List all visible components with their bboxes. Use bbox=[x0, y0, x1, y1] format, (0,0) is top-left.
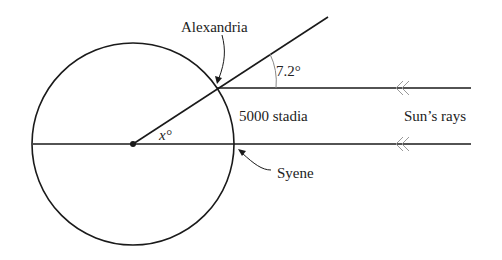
label-distance: 5000 stadia bbox=[239, 108, 308, 124]
syene-leader-arrow bbox=[242, 153, 271, 170]
label-angle-7-2: 7.2° bbox=[276, 63, 301, 79]
alexandria-radius-line bbox=[133, 17, 328, 144]
eratosthenes-diagram: Alexandria 7.2° 5000 stadia Sun’s rays x… bbox=[0, 0, 502, 260]
label-angle-x: x° bbox=[158, 127, 172, 143]
alexandria-arrowhead-icon bbox=[215, 76, 222, 84]
label-syene: Syene bbox=[277, 165, 314, 181]
label-alexandria: Alexandria bbox=[181, 19, 248, 35]
alexandria-leader-arrow bbox=[219, 35, 224, 78]
earth-center-dot bbox=[130, 141, 136, 147]
label-sun-rays: Sun’s rays bbox=[404, 108, 466, 124]
